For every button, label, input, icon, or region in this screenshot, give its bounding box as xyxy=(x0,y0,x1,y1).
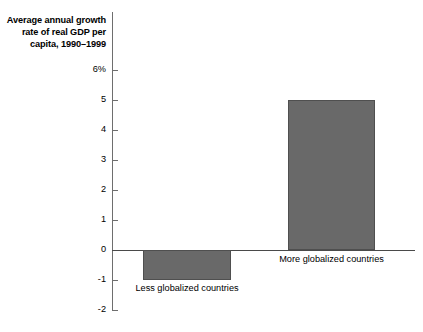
y-tick-mark xyxy=(112,130,118,131)
y-tick-label: 6% xyxy=(60,65,106,75)
bar xyxy=(143,250,231,280)
y-tick-mark xyxy=(112,280,118,281)
y-tick-label: -1 xyxy=(60,275,106,285)
y-axis-line xyxy=(112,12,113,311)
chart-title: Average annual growth rate of real GDP p… xyxy=(2,14,106,51)
y-tick-label-text: -2 xyxy=(60,305,106,314)
y-tick-mark xyxy=(112,220,118,221)
y-tick-label-text: 1 xyxy=(60,215,106,224)
y-tick-label: 3 xyxy=(60,155,106,165)
y-tick-label: 5 xyxy=(60,95,106,105)
y-tick-label: 1 xyxy=(60,215,106,225)
y-tick-mark xyxy=(112,190,118,191)
y-tick-label-text: 3 xyxy=(60,155,106,164)
y-tick-label-text: -1 xyxy=(60,275,106,284)
y-tick-label-text: 5 xyxy=(60,95,106,104)
bar xyxy=(288,100,375,250)
y-tick-label-text: 0 xyxy=(60,245,106,254)
y-tick-mark xyxy=(112,70,118,71)
category-label: More globalized countries xyxy=(279,254,384,265)
y-tick-label: 4 xyxy=(60,125,106,135)
y-tick-label-text: 6% xyxy=(60,65,106,74)
y-tick-mark xyxy=(112,100,118,101)
y-tick-label-text: 4 xyxy=(60,125,106,134)
chart-figure: Average annual growth rate of real GDP p… xyxy=(0,0,423,332)
y-tick-label: 2 xyxy=(60,185,106,195)
category-label: Less globalized countries xyxy=(135,283,238,294)
y-tick-label-text: 2 xyxy=(60,185,106,194)
y-tick-label: -2 xyxy=(60,305,106,315)
y-tick-label: 0 xyxy=(60,245,106,255)
y-tick-mark xyxy=(112,160,118,161)
y-tick-mark xyxy=(112,310,118,311)
